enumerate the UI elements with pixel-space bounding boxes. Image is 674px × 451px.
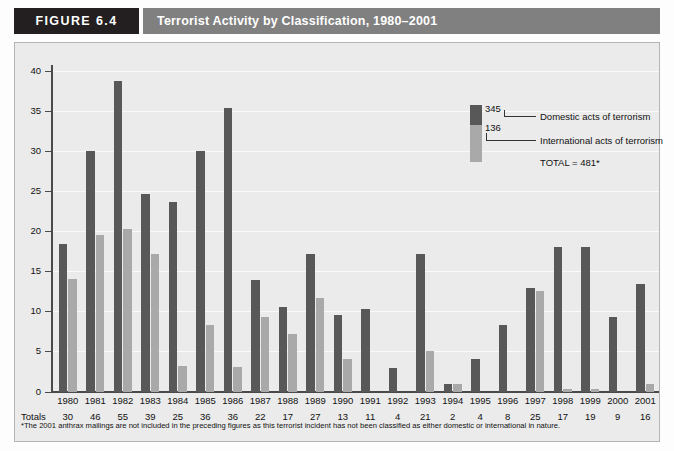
- figure-number-badge: FIGURE 6.4: [14, 8, 139, 34]
- bar-domestic-1991: [361, 309, 370, 392]
- bar-domestic-1992: [389, 368, 398, 391]
- bar-domestic-1988: [279, 307, 288, 391]
- figure-root: FIGURE 6.4 Terrorist Activity by Classif…: [0, 0, 674, 451]
- legend-swatch-domestic: [470, 105, 482, 125]
- bar-domestic-1996: [499, 325, 508, 392]
- bar-international-1989: [316, 298, 325, 392]
- bar-international-1980: [68, 279, 77, 391]
- chart-legend: 345 136 Domestic acts of terrorism Inter…: [470, 102, 656, 168]
- bar-domestic-1986: [224, 108, 233, 392]
- legend-label-domestic: Domestic acts of terrorism: [540, 111, 650, 122]
- bar-international-1997: [536, 291, 545, 391]
- x-axis-labels: Totals 198030198146198255198339198425198…: [15, 395, 661, 441]
- bar-domestic-1997: [526, 288, 535, 391]
- bar-domestic-1989: [306, 254, 315, 392]
- bar-domestic-1984: [169, 202, 178, 391]
- bar-international-1986: [233, 367, 242, 391]
- bar-domestic-1998: [554, 247, 563, 391]
- bar-international-1998: [563, 389, 572, 391]
- bar-domestic-1993: [416, 254, 425, 392]
- legend-leader-line-domestic: [504, 116, 536, 117]
- figure-title-bar: Terrorist Activity by Classification, 19…: [143, 8, 660, 34]
- legend-value-international: 136: [485, 123, 501, 133]
- bar-domestic-1983: [141, 194, 150, 392]
- bar-domestic-2000: [609, 317, 618, 392]
- figure-footnote: *The 2001 anthrax mailings are not inclu…: [21, 421, 655, 431]
- bar-domestic-1995: [471, 359, 480, 391]
- bar-international-1990: [343, 359, 352, 392]
- legend-swatch-international: [470, 125, 482, 162]
- bar-domestic-1990: [334, 315, 343, 392]
- chart-plot-area: 0510152025303540 345 136 Domestic acts o…: [15, 43, 661, 443]
- chart-panel: 0510152025303540 345 136 Domestic acts o…: [14, 42, 660, 442]
- bar-international-1982: [123, 229, 132, 392]
- bar-international-1988: [288, 334, 297, 392]
- bar-domestic-1985: [196, 151, 205, 391]
- bar-international-1987: [261, 317, 270, 392]
- bar-international-1985: [206, 325, 215, 392]
- bar-international-1983: [151, 254, 160, 392]
- bar-domestic-1980: [59, 244, 68, 391]
- bar-international-1981: [96, 235, 105, 391]
- bar-domestic-1981: [86, 151, 95, 391]
- bar-international-1984: [178, 366, 187, 392]
- figure-header: FIGURE 6.4 Terrorist Activity by Classif…: [14, 8, 660, 34]
- bar-domestic-1999: [581, 247, 590, 391]
- bar-domestic-1987: [251, 280, 260, 391]
- bar-international-1994: [453, 384, 462, 391]
- bar-international-1999: [591, 389, 600, 391]
- bar-international-2001: [646, 384, 655, 392]
- legend-leader-line-international: [486, 140, 536, 141]
- bar-domestic-2001: [636, 284, 645, 391]
- legend-value-domestic: 345: [485, 104, 501, 114]
- bar-domestic-1994: [444, 384, 453, 392]
- figure-title: Terrorist Activity by Classification, 19…: [157, 8, 437, 34]
- legend-total-label: TOTAL = 481*: [540, 157, 600, 168]
- figure-number-label: FIGURE 6.4: [14, 8, 139, 34]
- x-axis-year-label: 2001: [628, 395, 662, 407]
- bar-international-1993: [426, 351, 435, 391]
- legend-label-international: International acts of terrorism: [540, 135, 663, 146]
- bar-domestic-1982: [114, 81, 123, 391]
